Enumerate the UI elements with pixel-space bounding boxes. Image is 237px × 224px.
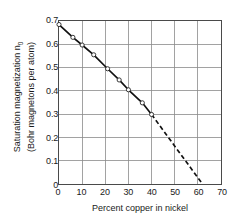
data-point bbox=[80, 43, 84, 47]
chart-figure: 0.7 0.6 0.5 0.4 0.3 0.2 0.1 0 0 10 20 30… bbox=[0, 0, 237, 224]
x-axis-label: Percent copper in nickel bbox=[58, 203, 222, 214]
data-point bbox=[117, 78, 121, 82]
data-point bbox=[71, 35, 75, 39]
data-point bbox=[126, 88, 130, 92]
y-tick-label: 0.6 bbox=[18, 40, 58, 49]
y-tick-label: 0.3 bbox=[18, 110, 58, 119]
y-tick-label: 0.1 bbox=[18, 157, 58, 166]
data-point bbox=[106, 67, 110, 71]
data-point bbox=[92, 53, 96, 57]
series-line-dashed bbox=[152, 114, 203, 184]
data-point bbox=[149, 112, 153, 116]
y-tick-label: 0.7 bbox=[18, 16, 58, 25]
y-tick-label: 0.4 bbox=[18, 87, 58, 96]
plot-area bbox=[58, 20, 222, 185]
series-markers bbox=[57, 22, 154, 116]
x-tick-label: 70 bbox=[207, 188, 237, 197]
y-tick-label: 0.2 bbox=[18, 134, 58, 143]
data-series bbox=[59, 21, 221, 184]
y-tick-label: 0.5 bbox=[18, 63, 58, 72]
data-point bbox=[140, 101, 144, 105]
data-point bbox=[57, 22, 61, 26]
